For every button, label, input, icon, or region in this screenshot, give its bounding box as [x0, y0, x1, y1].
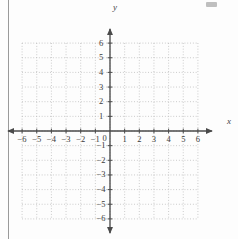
x-tick-label-2: 2 [131, 134, 147, 144]
y-tick-label-1: 1 [93, 111, 109, 121]
y-tick-label-4: 4 [93, 67, 109, 77]
y-tick-label-3: 3 [93, 82, 109, 92]
coordinate-plane-svg [0, 0, 238, 239]
x-axis-label: x [227, 116, 231, 126]
x-tick-label-3: 3 [146, 134, 162, 144]
y-tick-label-6: 6 [93, 38, 109, 48]
y-tick-label--2: −2 [93, 155, 109, 165]
axes-group [8, 29, 212, 233]
y-tick-label-2: 2 [93, 96, 109, 106]
coordinate-grid-figure: −6−5−4−3−2−1123456−6−5−4−3−2−1123456 x y… [0, 0, 238, 239]
y-tick-label--6: −6 [93, 213, 109, 223]
y-tick-label--5: −5 [93, 199, 109, 209]
x-tick-label--2: −2 [73, 134, 89, 144]
y-tick-label--4: −4 [93, 184, 109, 194]
x-tick-label--5: −5 [29, 134, 45, 144]
x-tick-label--4: −4 [43, 134, 59, 144]
origin-label: 0 [100, 133, 109, 143]
y-tick-label-5: 5 [93, 52, 109, 62]
x-tick-label-4: 4 [161, 134, 177, 144]
x-tick-label--6: −6 [14, 134, 30, 144]
x-tick-label-6: 6 [190, 134, 206, 144]
y-axis-label: y [113, 2, 117, 12]
x-tick-label-5: 5 [175, 134, 191, 144]
x-tick-label--3: −3 [58, 134, 74, 144]
y-tick-label--3: −3 [93, 169, 109, 179]
x-tick-label-1: 1 [117, 134, 133, 144]
